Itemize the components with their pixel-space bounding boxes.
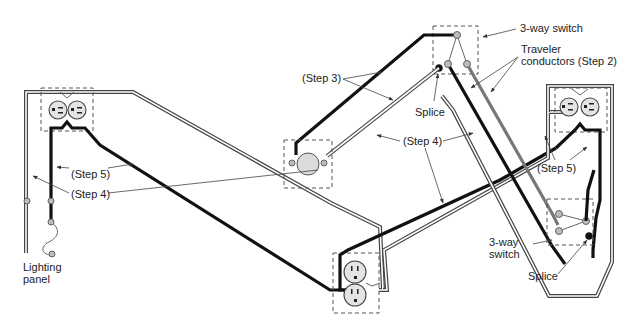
label-3-way-switch-bottom-line1: 3-way	[489, 236, 519, 248]
traveler-terminal	[556, 228, 563, 235]
label-lighting-panel-line1: Lighting	[23, 261, 62, 273]
receptacle-outlet	[49, 101, 67, 119]
hot-conductor-left	[51, 122, 350, 290]
terminal	[48, 219, 54, 225]
label-traveler-line2: conductors (Step 2)	[521, 55, 617, 67]
traveler-terminal	[445, 61, 452, 68]
receptacle-outlet	[68, 101, 86, 119]
panel-leads	[24, 198, 58, 257]
label-traveler-line1: Traveler	[521, 43, 561, 55]
label-step5-left: (Step 5)	[71, 168, 110, 180]
receptacle-outlet	[344, 261, 366, 283]
wiring-diagram: 3-way switch Traveler conductors (Step 2…	[0, 0, 638, 320]
label-3-way-switch-top: 3-way switch	[520, 22, 583, 34]
bottom-3-way-switch	[547, 170, 594, 245]
label-splice-top: Splice	[415, 106, 445, 118]
label-lighting-panel-line2: panel	[23, 273, 50, 285]
terminal	[48, 198, 54, 204]
splice-bottom	[586, 233, 593, 240]
label-step3: (Step 3)	[302, 72, 341, 84]
traveler-terminal	[464, 61, 471, 68]
traveler-terminal	[556, 211, 563, 218]
label-step4-left: (Step 4)	[71, 188, 110, 200]
label-3-way-switch-bottom-line2: switch	[489, 248, 520, 260]
receptacle-outlet	[581, 98, 599, 116]
label-splice-bottom: Splice	[528, 270, 558, 282]
switch-common-terminal	[454, 32, 461, 39]
terminal	[24, 198, 30, 204]
label-step5-right: (Step 5)	[537, 162, 576, 174]
terminal	[49, 251, 55, 257]
label-step4-center: (Step 4)	[403, 135, 442, 147]
terminal	[289, 160, 295, 166]
receptacle-outlet	[344, 284, 366, 306]
left-receptacle	[41, 88, 93, 131]
terminal	[321, 160, 327, 166]
